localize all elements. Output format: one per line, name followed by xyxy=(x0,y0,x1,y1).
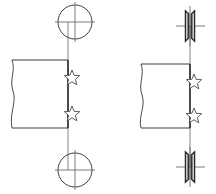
technical-drawing xyxy=(0,0,216,194)
right-view xyxy=(140,6,205,187)
body-right-break-edge xyxy=(140,64,143,128)
broken-section-body-right[interactable] xyxy=(140,64,190,128)
bearing-section-bottom-right[interactable] xyxy=(176,147,205,187)
star-symbol-lower-left-shape xyxy=(64,106,79,121)
left-view xyxy=(11,2,95,190)
body-left-break-edge xyxy=(11,60,14,128)
star-symbol-upper-left[interactable] xyxy=(64,70,79,85)
star-symbol-lower-right[interactable] xyxy=(186,108,201,123)
broken-section-body-left[interactable] xyxy=(11,60,68,128)
bearing-section-top-right[interactable] xyxy=(176,6,205,46)
star-symbol-upper-left-shape xyxy=(64,70,79,85)
drawing-canvas xyxy=(0,0,216,194)
bearing-bottom-right-right-race xyxy=(192,152,195,182)
star-symbol-upper-right-shape xyxy=(186,74,201,89)
bearing-bottom-right-left-race xyxy=(186,152,189,182)
star-symbol-lower-left[interactable] xyxy=(64,106,79,121)
pulley-circle-bottom-left[interactable] xyxy=(55,150,95,190)
star-symbol-lower-right-shape xyxy=(186,108,201,123)
bearing-top-right-right-race xyxy=(192,11,195,41)
star-symbol-upper-right[interactable] xyxy=(186,74,201,89)
bearing-top-right-left-race xyxy=(186,11,189,41)
pulley-circle-top-left[interactable] xyxy=(55,2,95,42)
